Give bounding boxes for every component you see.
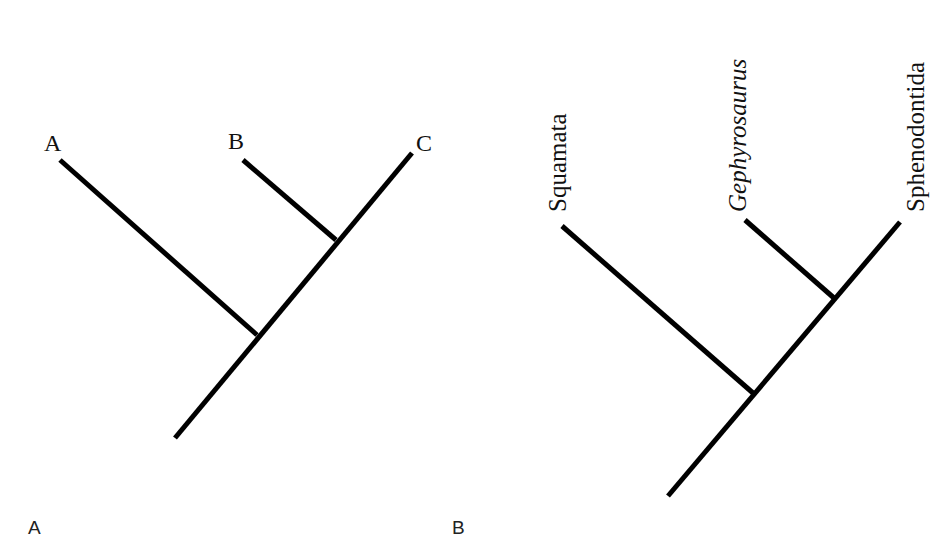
panel-b: Squamata Gephyrosaurus Sphenodontida B — [0, 0, 952, 560]
tip-label-squamata: Squamata — [544, 113, 571, 212]
panel-label-b: B — [452, 517, 465, 539]
tip-label-sphenodontida: Sphenodontida — [902, 62, 929, 212]
branch-gephyrosaurus — [745, 220, 834, 298]
tip-label-gephyrosaurus: Gephyrosaurus — [724, 59, 751, 212]
cladogram-b: Squamata Gephyrosaurus Sphenodontida — [0, 0, 952, 560]
branch-root-b — [668, 222, 900, 496]
branch-squamata — [562, 226, 753, 393]
